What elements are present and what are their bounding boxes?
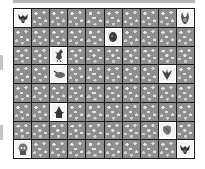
game-board [13,8,195,159]
hidden-tile[interactable] [14,47,31,65]
hidden-tile[interactable] [141,9,158,27]
hidden-tile[interactable] [177,65,194,83]
hidden-tile[interactable] [50,28,67,46]
revealed-tile[interactable] [50,47,67,65]
hidden-tile[interactable] [32,9,49,27]
hidden-tile[interactable] [105,140,122,158]
hidden-tile[interactable] [14,84,31,102]
hidden-tile[interactable] [123,65,140,83]
hidden-tile[interactable] [50,9,67,27]
hidden-tile[interactable] [86,103,103,121]
hidden-tile[interactable] [68,28,85,46]
hidden-tile[interactable] [32,84,49,102]
hidden-tile[interactable] [123,122,140,140]
hidden-tile[interactable] [68,103,85,121]
hidden-tile[interactable] [32,65,49,83]
hidden-tile[interactable] [105,9,122,27]
hidden-tile[interactable] [68,47,85,65]
hidden-tile[interactable] [32,140,49,158]
hidden-tile[interactable] [159,140,176,158]
hidden-tile[interactable] [86,84,103,102]
hidden-tile[interactable] [123,28,140,46]
hidden-tile[interactable] [159,103,176,121]
hidden-tile[interactable] [86,9,103,27]
revealed-tile[interactable] [177,9,194,27]
revealed-tile[interactable] [177,140,194,158]
revealed-tile[interactable] [50,65,67,83]
top-bar [13,0,195,3]
side-marker [0,55,3,70]
hidden-tile[interactable] [159,84,176,102]
hidden-tile[interactable] [68,122,85,140]
hidden-tile[interactable] [50,122,67,140]
hidden-tile[interactable] [105,47,122,65]
hidden-tile[interactable] [159,47,176,65]
hidden-tile[interactable] [68,9,85,27]
revealed-tile[interactable] [14,9,31,27]
hidden-tile[interactable] [177,47,194,65]
hidden-tile[interactable] [14,103,31,121]
hidden-tile[interactable] [177,28,194,46]
hidden-tile[interactable] [141,47,158,65]
hidden-tile[interactable] [68,140,85,158]
hidden-tile[interactable] [141,140,158,158]
hidden-tile[interactable] [159,9,176,27]
hidden-tile[interactable] [123,140,140,158]
hidden-tile[interactable] [123,103,140,121]
hidden-tile[interactable] [32,28,49,46]
hidden-tile[interactable] [32,122,49,140]
hidden-tile[interactable] [14,122,31,140]
hidden-tile[interactable] [86,28,103,46]
hidden-tile[interactable] [86,47,103,65]
hidden-tile[interactable] [68,65,85,83]
hidden-tile[interactable] [14,28,31,46]
hidden-tile[interactable] [141,28,158,46]
hidden-tile[interactable] [50,84,67,102]
hidden-tile[interactable] [177,84,194,102]
hidden-tile[interactable] [141,103,158,121]
hidden-tile[interactable] [86,65,103,83]
side-marker [0,125,3,140]
hidden-tile[interactable] [159,28,176,46]
hidden-tile[interactable] [141,65,158,83]
hidden-tile[interactable] [177,122,194,140]
hidden-tile[interactable] [68,84,85,102]
revealed-tile[interactable] [14,140,31,158]
hidden-tile[interactable] [177,103,194,121]
revealed-tile[interactable] [50,103,67,121]
hidden-tile[interactable] [123,47,140,65]
hidden-tile[interactable] [50,140,67,158]
hidden-tile[interactable] [105,65,122,83]
hidden-tile[interactable] [32,103,49,121]
hidden-tile[interactable] [86,140,103,158]
revealed-tile[interactable] [159,122,176,140]
hidden-tile[interactable] [123,84,140,102]
revealed-tile[interactable] [159,65,176,83]
revealed-tile[interactable] [105,28,122,46]
hidden-tile[interactable] [14,65,31,83]
hidden-tile[interactable] [105,84,122,102]
hidden-tile[interactable] [141,122,158,140]
hidden-tile[interactable] [105,103,122,121]
hidden-tile[interactable] [123,9,140,27]
hidden-tile[interactable] [86,122,103,140]
hidden-tile[interactable] [32,47,49,65]
hidden-tile[interactable] [141,84,158,102]
hidden-tile[interactable] [105,122,122,140]
